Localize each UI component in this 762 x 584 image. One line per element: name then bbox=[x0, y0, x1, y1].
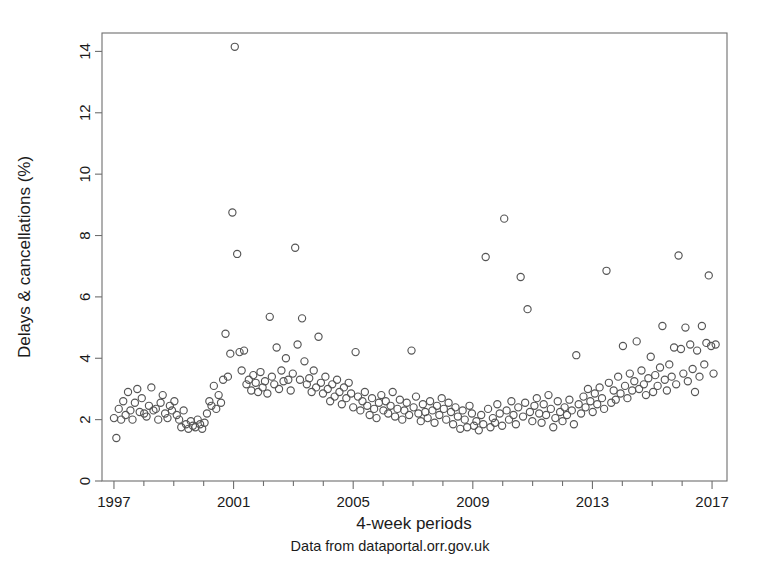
data-point bbox=[327, 398, 334, 405]
data-point bbox=[215, 391, 222, 398]
data-point bbox=[294, 341, 301, 348]
data-point bbox=[227, 350, 234, 357]
data-point bbox=[373, 415, 380, 422]
data-point bbox=[652, 372, 659, 379]
data-point bbox=[689, 365, 696, 372]
data-point bbox=[443, 416, 450, 423]
data-point bbox=[240, 347, 247, 354]
data-point bbox=[596, 384, 603, 391]
data-point bbox=[124, 388, 131, 395]
data-point bbox=[675, 252, 682, 259]
data-point bbox=[461, 416, 468, 423]
data-point bbox=[252, 379, 259, 386]
data-point bbox=[333, 376, 340, 383]
data-point bbox=[624, 395, 631, 402]
data-point bbox=[542, 411, 549, 418]
data-point bbox=[531, 402, 538, 409]
data-point bbox=[533, 395, 540, 402]
data-point bbox=[348, 390, 355, 397]
data-point bbox=[131, 399, 138, 406]
data-point bbox=[201, 419, 208, 426]
data-point bbox=[666, 361, 673, 368]
data-point bbox=[357, 407, 364, 414]
data-point bbox=[419, 401, 426, 408]
data-point bbox=[433, 402, 440, 409]
data-point bbox=[459, 407, 466, 414]
data-point bbox=[406, 411, 413, 418]
data-point bbox=[510, 411, 517, 418]
data-point bbox=[129, 416, 136, 423]
data-point bbox=[134, 385, 141, 392]
data-point bbox=[415, 410, 422, 417]
data-point bbox=[438, 395, 445, 402]
data-point bbox=[538, 419, 545, 426]
data-point bbox=[517, 273, 524, 280]
data-point bbox=[582, 404, 589, 411]
y-tick-label: 6 bbox=[76, 293, 93, 301]
data-point bbox=[387, 402, 394, 409]
data-point bbox=[610, 387, 617, 394]
data-point bbox=[710, 370, 717, 377]
y-tick-label: 12 bbox=[76, 104, 93, 121]
data-point bbox=[642, 391, 649, 398]
data-point bbox=[257, 368, 264, 375]
data-point bbox=[575, 401, 582, 408]
x-axis-ticks: 199720012005200920132017 bbox=[97, 481, 728, 510]
data-point bbox=[691, 388, 698, 395]
data-point bbox=[512, 421, 519, 428]
data-point bbox=[536, 410, 543, 417]
data-point bbox=[324, 385, 331, 392]
data-point bbox=[573, 352, 580, 359]
data-point bbox=[540, 401, 547, 408]
y-tick-label: 10 bbox=[76, 166, 93, 183]
data-point bbox=[598, 395, 605, 402]
data-point bbox=[494, 401, 501, 408]
data-point bbox=[389, 388, 396, 395]
data-point bbox=[687, 341, 694, 348]
data-points bbox=[110, 43, 719, 441]
data-point bbox=[524, 306, 531, 313]
y-tick-label: 4 bbox=[76, 354, 93, 362]
data-point bbox=[399, 416, 406, 423]
data-point bbox=[315, 333, 322, 340]
data-point bbox=[322, 373, 329, 380]
data-point bbox=[447, 408, 454, 415]
data-point bbox=[336, 388, 343, 395]
data-point bbox=[663, 387, 670, 394]
data-point bbox=[364, 402, 371, 409]
data-point bbox=[120, 398, 127, 405]
data-point bbox=[210, 382, 217, 389]
data-point bbox=[148, 384, 155, 391]
data-point bbox=[705, 272, 712, 279]
x-tick-label: 2017 bbox=[695, 493, 728, 510]
data-point bbox=[680, 370, 687, 377]
data-point bbox=[629, 387, 636, 394]
data-point bbox=[468, 410, 475, 417]
data-point bbox=[501, 215, 508, 222]
data-point bbox=[206, 398, 213, 405]
data-point bbox=[127, 407, 134, 414]
data-point bbox=[594, 401, 601, 408]
data-point bbox=[519, 413, 526, 420]
data-point bbox=[621, 382, 628, 389]
y-tick-label: 14 bbox=[76, 43, 93, 60]
data-point bbox=[633, 338, 640, 345]
data-point bbox=[266, 313, 273, 320]
data-point bbox=[515, 404, 522, 411]
data-point bbox=[550, 424, 557, 431]
data-point bbox=[403, 399, 410, 406]
data-point bbox=[296, 376, 303, 383]
data-point bbox=[449, 421, 456, 428]
y-tick-label: 2 bbox=[76, 415, 93, 423]
data-point bbox=[222, 330, 229, 337]
data-point bbox=[487, 424, 494, 431]
data-point bbox=[115, 405, 122, 412]
data-point bbox=[696, 373, 703, 380]
data-point bbox=[554, 398, 561, 405]
data-point bbox=[345, 379, 352, 386]
data-point bbox=[155, 416, 162, 423]
data-point bbox=[617, 390, 624, 397]
data-point bbox=[278, 367, 285, 374]
data-point bbox=[440, 405, 447, 412]
data-point bbox=[591, 390, 598, 397]
